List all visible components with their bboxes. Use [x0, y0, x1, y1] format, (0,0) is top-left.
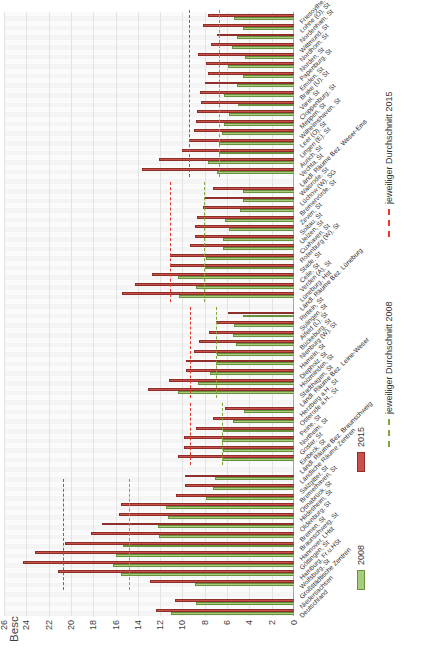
bar-2008-Stadthagen, St [178, 391, 294, 394]
bar-2015-Holzminden, St [169, 379, 294, 382]
bar-2008-Celle, St [178, 276, 294, 279]
bar-2008-Wilhelmshaven, St [222, 132, 295, 135]
bar-2015-Einbeck, St [178, 455, 294, 458]
tick-label-18: 18 [88, 620, 98, 650]
legend-label: 2015 [356, 427, 366, 447]
bar-2008-Papenburg, St [243, 75, 294, 78]
bar-2015-Lohne (O), St [203, 24, 294, 27]
gridline-26 [4, 12, 5, 616]
bar-2015-Celle, St [152, 273, 294, 276]
bar-2008-Aurich, St [208, 161, 294, 164]
bar-2008-Wittmund, St [232, 46, 294, 49]
bar-2015-Ländliche Räume Zentren [185, 475, 294, 478]
avg-2015-Ländl. Räume Bez. Leine-Weser [190, 307, 191, 398]
legend-label: jeweiliger Durchschnitt 2015 [384, 91, 394, 204]
bar-2015-Salzgitter, St [185, 484, 294, 487]
bar-2015-Stadthagen, St [148, 388, 294, 391]
bar-2008-Lüneburg, Hst [179, 295, 294, 298]
bar-2008-Alfeld (L), St [233, 334, 294, 337]
bar-2015-Wolfsburg, St [150, 580, 294, 583]
legend-swatch-2008-dash [388, 419, 390, 447]
gridline-24 [26, 12, 27, 616]
bar-2008-Vechta, St [217, 171, 294, 174]
avg-2015-Ländl. Räume Bez. Braunschweig [190, 403, 191, 465]
tick-label-14: 14 [133, 620, 143, 650]
bar-2015-Alfeld (L), St [209, 331, 294, 334]
bar-2008-Einbeck, St [222, 458, 295, 461]
bar-2008-Nordenham, St [237, 36, 294, 39]
bar-2008-Uelzen, St [223, 238, 294, 241]
bar-2008-Cuxhaven, St [223, 247, 294, 250]
tick-label-4: 4 [244, 620, 254, 650]
bar-2015-Hamburg, Fr.u.HSt [58, 570, 294, 573]
tick-label-0: 0 [289, 620, 299, 650]
tick-label-26: 26 [0, 620, 9, 650]
avg-2015-Ländl. Räume Bez. Lüneburg [170, 182, 171, 302]
bar-2008-Hameln, St [216, 362, 294, 365]
bar-2015-Wittmund, St [211, 43, 294, 46]
bar-2015-Stade, St [170, 264, 294, 267]
bar-2008-Nienburg (W), St [217, 353, 294, 356]
legend-swatch-2015-box [357, 452, 365, 472]
avg-2015-Großstädtische Zentren [63, 479, 64, 589]
bar-2008-Nordhorn, St [245, 56, 294, 59]
bar-2008-Braunschweig, St [123, 545, 294, 548]
avg-2015-Ländl. Räume Bez. Weser-Ems [189, 10, 190, 178]
bar-2008-Rinteln, St [243, 315, 294, 318]
bar-2008-Osnabrück, St [166, 506, 294, 509]
bar-2015-Emden, St [205, 82, 294, 85]
legend-item-jeweiliger Durchschnitt 2008: jeweiliger Durchschnitt 2008 [384, 301, 394, 447]
bar-2015-Bremerhaven, St [176, 494, 294, 497]
bar-2015-Uelzen, St [195, 235, 294, 238]
avg-2008-Ländl. Räume Bez. Lüneburg [204, 182, 205, 302]
bar-2015-Nordhorn, St [198, 53, 294, 56]
legend-swatch-2015-dash [388, 209, 390, 237]
bar-2008-Osterode a.H., St [233, 420, 294, 423]
bar-2008-Bückeburg, St [236, 343, 294, 346]
bar-2015-Leer (O), St [189, 139, 294, 142]
bar-2008-Niedersachsen [196, 602, 294, 605]
bar-2008-Oldenburg, St [158, 525, 294, 528]
bar-2008-Brake (U), St [224, 94, 294, 97]
chart-canvas: Beschäftigte mit Hochschulabschluss, Ant… [0, 0, 428, 652]
bar-2015-Varel, St [201, 101, 294, 104]
bar-2015-Oldenburg, St [102, 523, 294, 526]
bar-2008-Wolfsburg, St [195, 583, 294, 586]
gridline-20 [71, 12, 72, 616]
bar-2015-Diepholz, St [186, 369, 294, 372]
bar-2015-Braunschweig, St [65, 542, 294, 545]
bar-2015-Goslar, St [184, 446, 294, 449]
bar-2015-Herzberg a.H., St [225, 407, 294, 410]
bar-2008-Stade, St [205, 267, 294, 270]
bar-2008-Rotenburg (W), St [206, 257, 294, 260]
legend-item-2008: 2008 [356, 545, 366, 590]
tick-label-6: 6 [222, 620, 232, 650]
bar-2015-Deutschland [156, 609, 294, 612]
avg-2008-Ländl. Räume Bez. Leine-Weser [216, 307, 217, 398]
bar-2015-Cuxhaven, St [190, 245, 294, 248]
bar-2015-Bremen, St [91, 532, 294, 535]
bar-2008-Diepholz, St [210, 372, 294, 375]
bar-2015-Vechta, St [142, 168, 294, 171]
avg-2008-Großstädtische Zentren [129, 479, 130, 589]
bar-2015-Friesoythe, St [208, 14, 294, 17]
bar-2008-Hildesheim, St [168, 516, 294, 519]
bar-2015-Meppen, St [196, 120, 294, 123]
bar-2008-Lohne (O), St [243, 27, 294, 30]
legend-label: jeweiliger Durchschnitt 2008 [384, 301, 394, 414]
rotated-chart-screenshot: Beschäftigte mit Hochschulabschluss, Ant… [0, 0, 428, 652]
bar-2008-Lüchow (W), SG [243, 199, 294, 202]
bar-2015-Lüneburg, Hst [122, 292, 294, 295]
bar-2008-Northeim, St [222, 439, 295, 442]
tick-label-12: 12 [155, 620, 165, 650]
bar-2015-Hannover, LHst [35, 551, 294, 554]
bar-2008-Friesoythe, St [234, 17, 294, 20]
bar-2015-Nordenham, St [217, 34, 294, 37]
bar-2015-Bremervörde, St [203, 206, 294, 209]
bar-2008-Bremerhaven, St [206, 497, 294, 500]
bar-2008-Goslar, St [223, 449, 294, 452]
bar-2015-Lüchow (W), SG [205, 197, 294, 200]
tick-label-16: 16 [111, 620, 121, 650]
bar-2015-Northeim, St [184, 436, 294, 439]
tick-label-22: 22 [44, 620, 54, 650]
